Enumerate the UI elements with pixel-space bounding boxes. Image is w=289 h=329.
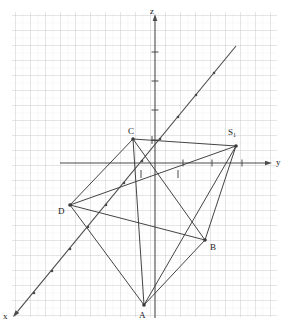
x-axis-tick-dot-1 (213, 72, 216, 75)
x-axis-tick-dot-6 (123, 182, 126, 185)
diagram-canvas: zyxABCDS1 (0, 0, 289, 329)
x-axis-tick-dot-11 (33, 292, 36, 295)
x-axis-tick-dot-9 (69, 248, 72, 251)
axis-label-z: z (150, 7, 154, 16)
vertex-dot-C (131, 137, 135, 141)
x-axis-tick-dot-4 (159, 138, 162, 141)
x-axis-tick-dot-2 (195, 94, 198, 97)
vertex-dot-D (68, 203, 72, 207)
vertex-label-S1: S1 (228, 128, 236, 137)
x-axis-tick-dot-5 (141, 160, 144, 163)
vertex-label-C: C (128, 127, 134, 136)
x-axis-tick-dot-3 (177, 116, 180, 119)
x-axis-tick-dot-10 (51, 270, 54, 273)
axis-label-y: y (276, 158, 281, 167)
vertex-label-D: D (58, 207, 65, 216)
vertex-dot-A (142, 303, 146, 307)
x-axis-tick-dot-7 (105, 204, 108, 207)
vertex-label-A: A (139, 311, 146, 320)
axis-label-x: x (3, 312, 8, 321)
vertex-dot-S1 (234, 144, 238, 148)
vertex-dot-B (203, 238, 207, 242)
vertex-label-B: B (210, 243, 216, 252)
geometry-figure (0, 0, 289, 329)
